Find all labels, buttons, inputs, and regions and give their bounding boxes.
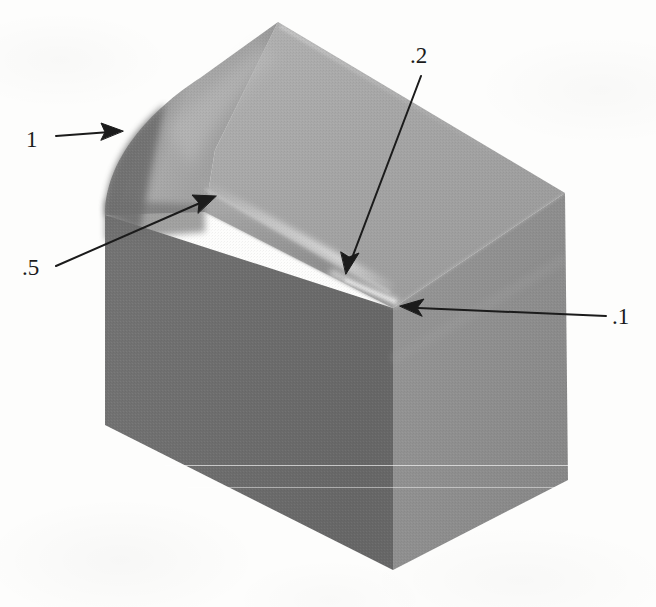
- callout-label-radius-01: .1: [612, 305, 629, 328]
- callout-label-radius-1: 1: [26, 128, 38, 151]
- figure-canvas: 1 .5 .2 .1: [0, 0, 656, 607]
- callout-label-radius-02: .2: [410, 44, 427, 67]
- print-grain: [0, 0, 656, 607]
- filleted-block-illustration: [0, 0, 656, 607]
- leader-arrow-r1: [56, 123, 123, 140]
- callout-label-radius-05: .5: [22, 256, 39, 279]
